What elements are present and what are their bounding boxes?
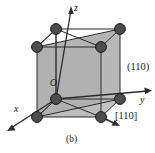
atom-corner — [96, 42, 107, 53]
atom-corner — [96, 112, 107, 123]
atom-corner — [115, 24, 126, 35]
atom-corner — [32, 42, 43, 53]
direction-label-110: [110] — [115, 111, 137, 122]
atom-corner — [115, 94, 126, 105]
crystal-cell-drawing — [0, 0, 155, 153]
atom-origin — [51, 94, 62, 105]
axis-label-z: z — [74, 3, 78, 13]
atom-corner — [51, 24, 62, 35]
origin-label: O — [50, 79, 57, 89]
axis-label-y: y — [140, 95, 144, 105]
axis-label-x: x — [14, 104, 18, 114]
atom-corner — [32, 112, 43, 123]
crystal-unit-cell-figure: z y x O (110) [110] (b) — [0, 0, 155, 153]
plane-label-110: (110) — [127, 62, 149, 73]
figure-caption: (b) — [66, 135, 77, 145]
